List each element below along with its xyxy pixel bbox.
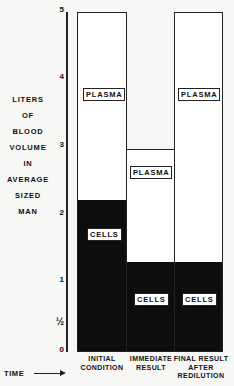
y-tick-3: 3 — [52, 140, 64, 149]
y-axis-label-word: IN — [0, 159, 56, 168]
cells-label: CELLS — [87, 228, 122, 241]
y-tick-0: 0 — [52, 345, 64, 354]
y-axis-label-word: OF — [0, 111, 56, 120]
x-label-immediate-result: IMMEDIATE RESULT — [124, 355, 178, 372]
x-label-initial-condition: INITIAL CONDITION — [74, 355, 130, 372]
y-axis-label-word: LITERS — [0, 95, 56, 104]
x-label-final-result: FINAL RESULT AFTER REDILUTION — [172, 355, 230, 381]
y-tick-1: 1 — [52, 275, 64, 284]
y-axis-label-word: MAN — [0, 207, 56, 216]
y-tick-2: 2 — [52, 208, 64, 217]
y-axis-label-word: AVERAGE — [0, 175, 56, 184]
bar-final-result: PLASMA CELLS — [174, 12, 223, 352]
plasma-label: PLASMA — [178, 88, 220, 101]
bar-initial-condition: PLASMA CELLS — [77, 12, 127, 352]
plasma-label: PLASMA — [130, 166, 172, 179]
y-axis-label-word: VOLUME — [0, 143, 56, 152]
cells-segment — [127, 262, 174, 351]
arrow-right-icon — [34, 373, 64, 374]
cells-segment — [175, 262, 222, 351]
y-tick-4: 4 — [52, 72, 64, 81]
cells-label: CELLS — [134, 293, 169, 306]
bar-immediate-result: PLASMA CELLS — [126, 149, 175, 352]
plasma-label: PLASMA — [83, 88, 125, 101]
y-tick-5: 5 — [52, 5, 64, 14]
y-axis-line — [66, 12, 68, 352]
y-tick-half: ½ — [52, 316, 64, 327]
y-axis-label-word: SIZED — [0, 191, 56, 200]
cells-segment — [78, 200, 126, 351]
cells-label: CELLS — [182, 293, 217, 306]
x-axis-label-time: TIME — [4, 369, 24, 378]
y-axis-label-word: BLOOD — [0, 127, 56, 136]
